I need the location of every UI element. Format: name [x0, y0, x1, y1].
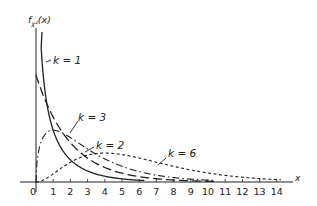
x-tick-label: 14	[271, 187, 283, 197]
plot-area	[0, 0, 317, 206]
x-tick-label: 8	[171, 187, 177, 197]
label-k3: k = 3	[78, 112, 106, 123]
x-axis-label: x	[295, 174, 300, 183]
label-k6: k = 6	[168, 148, 196, 159]
x-tick-label: 0	[30, 187, 36, 197]
curve-k2	[36, 75, 216, 181]
leader-k2	[85, 147, 94, 152]
x-tick-label: 12	[236, 187, 248, 197]
y-axis-label-arg: (x)	[38, 14, 51, 25]
chi-square-density-chart: fχ²(x) x k = 1 k = 3 k = 2 k = 6 0123456…	[0, 0, 317, 206]
label-k2: k = 2	[96, 140, 124, 151]
x-tick-label: 13	[254, 187, 266, 197]
x-tick-label: 1	[50, 187, 56, 197]
x-tick-label: 7	[153, 187, 159, 197]
curve-k6	[36, 153, 281, 182]
x-tick-label: 2	[67, 187, 73, 197]
x-tick-label: 5	[119, 187, 125, 197]
label-k1: k = 1	[53, 55, 81, 66]
leader-k1	[46, 60, 51, 62]
x-tick-label: 9	[188, 187, 194, 197]
x-tick-label: 11	[219, 187, 231, 197]
y-axis-label: fχ²(x)	[28, 15, 51, 27]
x-tick-label: 6	[136, 187, 142, 197]
x-tick-label: 4	[102, 187, 108, 197]
x-tick-label: 3	[85, 187, 91, 197]
x-tick-label: 10	[202, 187, 214, 197]
leader-k3	[70, 121, 78, 133]
